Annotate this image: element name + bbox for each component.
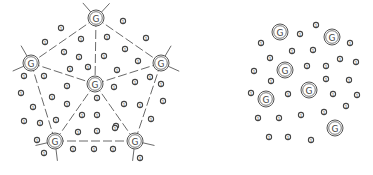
sensor-label: 1 — [306, 64, 309, 69]
sensor-label: 1 — [270, 79, 273, 84]
sensor-node: 1 — [313, 22, 318, 27]
sensor-label: 1 — [87, 65, 90, 70]
gateway-node: G — [23, 55, 39, 71]
sensor-label: 1 — [257, 116, 260, 121]
sensor-node: 1 — [323, 63, 328, 68]
sensor-label: 1 — [39, 121, 42, 126]
sensor-node: 1 — [64, 101, 69, 106]
gateway-node: G — [272, 24, 288, 40]
sensor-node: 1 — [94, 128, 99, 133]
sensor-label: 1 — [278, 116, 281, 121]
sensor-node: 1 — [70, 146, 75, 151]
sensor-node: 1 — [64, 83, 69, 88]
sensor-node: 1 — [268, 78, 273, 83]
sensor-node: 1 — [67, 66, 72, 71]
sensor-label: 1 — [269, 56, 272, 61]
sensor-node: 1 — [304, 63, 309, 68]
sensor-node: 1 — [148, 116, 153, 121]
sensor-label: 1 — [325, 64, 328, 69]
sensor-node: 1 — [267, 55, 272, 60]
sensor-label: 1 — [268, 135, 271, 140]
sensor-label: 1 — [106, 35, 109, 40]
sensor-label: 1 — [150, 117, 153, 122]
sensor-node: 1 — [337, 56, 342, 61]
sensor-label: 1 — [291, 49, 294, 54]
sensor-label: 1 — [348, 78, 351, 83]
sensor-node: 1 — [75, 129, 80, 134]
sensor-node: 1 — [298, 112, 303, 117]
sensor-label: 1 — [260, 41, 263, 46]
gateway-node: G — [87, 76, 103, 92]
sensor-label: 1 — [96, 129, 99, 134]
gateway-label: G — [92, 80, 99, 90]
sensor-node: 1 — [321, 109, 326, 114]
sensor-label: 1 — [339, 57, 342, 62]
sensor-label: 1 — [122, 19, 125, 24]
sensor-node: 1 — [158, 81, 163, 86]
sensor-label: 1 — [60, 26, 63, 31]
sensor-label: 1 — [139, 103, 142, 108]
sensor-node: 1 — [94, 95, 99, 100]
gateway-label: G — [306, 86, 313, 96]
sensor-label: 1 — [323, 110, 326, 115]
sensor-label: 1 — [250, 91, 253, 96]
sensor-label: 1 — [103, 54, 106, 59]
sensor-node: 1 — [120, 18, 125, 23]
sensor-label: 1 — [69, 67, 72, 72]
sensor-node: 1 — [21, 73, 26, 78]
sensor-node: 1 — [330, 91, 335, 96]
sensor-node: 1 — [114, 67, 119, 72]
sensor-label: 1 — [355, 60, 358, 65]
sensor-label: 1 — [114, 126, 117, 131]
gateway-label: G — [132, 137, 139, 147]
gateway-node: G — [88, 10, 104, 26]
sensor-label: 1 — [162, 99, 165, 104]
sensor-node: 1 — [76, 54, 81, 59]
sensor-label: 1 — [96, 96, 99, 101]
sensor-label: 1 — [332, 92, 335, 97]
sensor-node: 1 — [266, 134, 271, 139]
sensor-label: 1 — [134, 80, 137, 85]
sensor-label: 1 — [80, 37, 83, 42]
sensor-label: 1 — [345, 104, 348, 109]
gateway-node: G — [47, 133, 63, 149]
sensor-label: 1 — [113, 85, 116, 90]
sensor-node: 1 — [132, 79, 137, 84]
random-deployment-panel: 111111111111111111111111111 GGGGGG — [248, 22, 359, 142]
sensor-label: 1 — [253, 69, 256, 74]
sensor-label: 1 — [315, 23, 318, 28]
sensor-node: 1 — [61, 49, 66, 54]
sensor-node: 1 — [308, 137, 313, 142]
sensor-node: 1 — [49, 94, 54, 99]
sensor-node: 1 — [276, 115, 281, 120]
sensor-label: 1 — [43, 74, 46, 79]
sensor-label: 1 — [325, 77, 328, 82]
gateway-node: G — [301, 82, 317, 98]
gateway-label: G — [28, 59, 35, 69]
sensor-node: 1 — [30, 104, 35, 109]
sensor-node: 1 — [85, 64, 90, 69]
sensor-label: 1 — [66, 102, 69, 107]
sensor-label: 1 — [23, 119, 26, 124]
sensor-node: 1 — [147, 74, 152, 79]
sensor-node: 1 — [112, 125, 117, 130]
gateway-label: G — [52, 137, 59, 147]
sensor-label: 1 — [78, 55, 81, 60]
sensor-label: 1 — [44, 40, 47, 45]
gateway-label: G — [329, 33, 336, 43]
sensor-label: 1 — [349, 41, 352, 46]
sensor-node: 1 — [346, 77, 351, 82]
sensor-label: 1 — [77, 130, 80, 135]
sensor-label: 1 — [139, 156, 142, 161]
sensor-node: 1 — [297, 31, 302, 36]
sensor-label: 1 — [63, 50, 66, 55]
sensor-node: 1 — [79, 112, 84, 117]
sensor-node: 1 — [289, 48, 294, 53]
sensor-node: 1 — [285, 91, 290, 96]
sensor-node: 1 — [137, 155, 142, 160]
sensor-label: 1 — [149, 75, 152, 80]
sensor-node: 1 — [310, 47, 315, 52]
sensor-node: 1 — [41, 73, 46, 78]
sensor-node: 1 — [258, 40, 263, 45]
sensor-label: 1 — [123, 102, 126, 107]
